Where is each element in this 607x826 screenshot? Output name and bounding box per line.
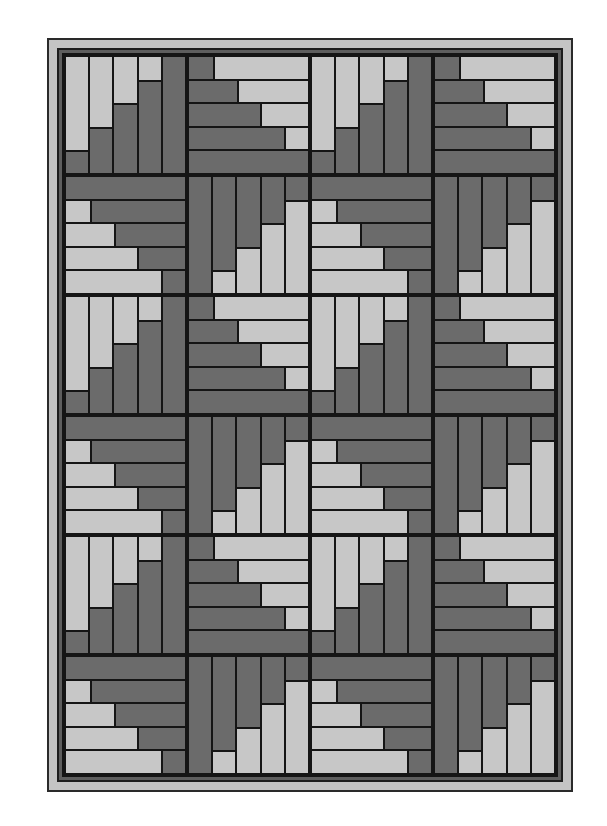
quilt-strip: [162, 56, 186, 174]
quilt-block-d: [433, 175, 556, 295]
dark-fabric-patch: [262, 657, 284, 703]
quilt-block-a: [310, 535, 433, 655]
light-fabric-patch: [90, 297, 112, 367]
quilt-strip: [65, 727, 186, 751]
light-fabric-patch: [360, 537, 382, 583]
dark-fabric-patch: [435, 584, 506, 606]
light-fabric-patch: [312, 271, 407, 293]
quilt-strip: [65, 487, 186, 511]
light-fabric-patch: [262, 703, 284, 773]
quilt-strip: [65, 176, 186, 200]
light-fabric-patch: [459, 537, 554, 559]
quilt-strip: [434, 367, 555, 391]
quilt-strip: [188, 656, 212, 774]
quilt-strip: [458, 176, 482, 294]
quilt-strip: [65, 247, 186, 271]
quilt-strip: [434, 127, 555, 151]
dark-fabric-patch: [312, 417, 431, 439]
quilt-strip: [458, 416, 482, 534]
light-fabric-patch: [66, 441, 90, 463]
quilt-strip: [285, 176, 309, 294]
quilt-strip: [482, 416, 506, 534]
light-fabric-patch: [530, 368, 554, 390]
dark-fabric-patch: [435, 57, 459, 79]
light-fabric-patch: [66, 488, 137, 510]
dark-fabric-patch: [407, 751, 431, 773]
dark-fabric-patch: [137, 488, 185, 510]
light-fabric-patch: [508, 703, 530, 773]
light-fabric-patch: [213, 297, 308, 319]
light-fabric-patch: [286, 680, 308, 773]
quilt-block-c: [64, 655, 187, 775]
dark-fabric-patch: [90, 441, 185, 463]
quilt-block-b: [187, 295, 310, 415]
quilt-strip: [434, 583, 555, 607]
dark-fabric-patch: [213, 657, 235, 750]
quilt-strip: [162, 536, 186, 654]
quilt-grid: [62, 53, 558, 777]
dark-fabric-patch: [385, 80, 407, 173]
quilt-strip: [236, 176, 260, 294]
quilt-block-d: [187, 655, 310, 775]
light-fabric-patch: [530, 128, 554, 150]
dark-fabric-patch: [189, 584, 260, 606]
quilt-strip: [212, 656, 236, 774]
dark-fabric-patch: [409, 57, 431, 173]
light-fabric-patch: [459, 57, 554, 79]
quilt-strip: [65, 463, 186, 487]
quilt-strip: [89, 536, 113, 654]
quilt-strip: [113, 536, 137, 654]
dark-fabric-patch: [407, 271, 431, 293]
light-fabric-patch: [213, 270, 235, 293]
quilt-strip: [65, 296, 89, 414]
light-fabric-patch: [260, 584, 308, 606]
light-fabric-patch: [532, 440, 554, 533]
light-fabric-patch: [237, 727, 259, 773]
dark-fabric-patch: [435, 391, 554, 413]
dark-fabric-patch: [262, 417, 284, 463]
quilt-strip: [384, 296, 408, 414]
quilt-strip: [408, 296, 432, 414]
light-fabric-patch: [385, 297, 407, 320]
light-fabric-patch: [213, 510, 235, 533]
quilt-strip: [188, 630, 309, 654]
light-fabric-patch: [114, 537, 136, 583]
quilt-strip: [89, 296, 113, 414]
quilt-block-d: [187, 175, 310, 295]
light-fabric-patch: [532, 200, 554, 293]
dark-fabric-patch: [435, 128, 530, 150]
quilt-strip: [261, 416, 285, 534]
quilt-strip: [434, 560, 555, 584]
quilt-strip: [434, 320, 555, 344]
light-fabric-patch: [459, 297, 554, 319]
dark-fabric-patch: [90, 127, 112, 173]
quilt-block-a: [64, 535, 187, 655]
quilt-strip: [311, 416, 432, 440]
quilt-strip: [434, 607, 555, 631]
light-fabric-patch: [483, 81, 554, 103]
quilt-strip: [188, 583, 309, 607]
dark-fabric-patch: [360, 103, 382, 173]
quilt-strip: [531, 176, 555, 294]
quilt-strip: [335, 56, 359, 174]
quilt-strip: [311, 656, 432, 680]
quilt-strip: [531, 416, 555, 534]
quilt-strip: [162, 296, 186, 414]
quilt-strip: [65, 56, 89, 174]
dark-fabric-patch: [66, 150, 88, 173]
dark-fabric-patch: [189, 321, 237, 343]
light-fabric-patch: [286, 440, 308, 533]
quilt-strip: [65, 200, 186, 224]
dark-fabric-patch: [459, 417, 481, 510]
dark-fabric-patch: [508, 417, 530, 463]
dark-fabric-patch: [139, 560, 161, 653]
light-fabric-patch: [284, 128, 308, 150]
dark-fabric-patch: [137, 728, 185, 750]
light-fabric-patch: [260, 104, 308, 126]
quilt-strip: [311, 176, 432, 200]
light-fabric-patch: [312, 511, 407, 533]
quilt-strip: [65, 510, 186, 534]
quilt-strip: [335, 536, 359, 654]
light-fabric-patch: [312, 297, 334, 390]
quilt-block-a: [310, 295, 433, 415]
